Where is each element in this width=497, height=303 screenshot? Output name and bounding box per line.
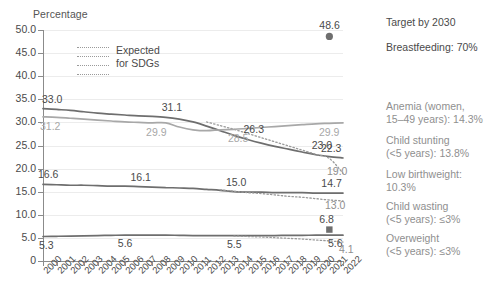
value-label: 14.7: [321, 177, 341, 189]
side-panel-overweight-line1: Overweight: [386, 232, 439, 244]
value-label: 16.1: [130, 171, 150, 183]
legend-label: Expected for SDGs: [116, 44, 160, 69]
y-tick-label: 15.0: [0, 185, 36, 197]
value-label: 5.6: [118, 237, 133, 249]
series-line: [43, 109, 343, 158]
value-label: 33.0: [42, 93, 62, 105]
value-label: 31.1: [162, 101, 182, 113]
legend-label-line2: for SDGs: [116, 57, 159, 69]
series-line: [43, 235, 343, 236]
side-panel-stunting: Child stunting (<5 years): 13.8%: [386, 134, 494, 160]
value-label: 6.8: [319, 213, 334, 225]
y-axis-title: Percentage: [33, 8, 88, 20]
side-panel-breastfeeding: Breastfeeding: 70%: [386, 41, 494, 54]
side-panel-birthweight: Low birthweight: 10.3%: [386, 168, 494, 194]
y-tick-label: 40.0: [0, 69, 36, 81]
y-tick-label: 25.0: [0, 139, 36, 151]
chart-root: Percentage 05.010.015.020.025.030.035.04…: [0, 0, 497, 303]
side-panel-anemia: Anemia (women, 15–49 years): 14.3%: [386, 100, 494, 126]
side-panel-heading: Target by 2030: [386, 16, 494, 29]
series-line: [234, 236, 343, 242]
side-panel-stunting-line2: (<5 years): 13.8%: [386, 147, 469, 159]
value-label: 13.0: [325, 199, 345, 211]
y-tick-label: 0: [0, 254, 36, 266]
side-panel-stunting-line1: Child stunting: [386, 134, 450, 146]
value-label: 29.9: [146, 126, 166, 138]
series-line: [43, 117, 343, 131]
side-panel-overweight: Overweight (<5 years): ≤3%: [386, 232, 494, 258]
side-panel-birthweight-line1: Low birthweight:: [386, 168, 462, 180]
value-label: 28.5: [228, 132, 248, 144]
value-label: 5.3: [39, 239, 54, 251]
data-point-marker: [326, 226, 332, 232]
y-tick-label: 30.0: [0, 115, 36, 127]
side-panel-wasting: Child wasting (<5 years): ≤3%: [386, 200, 494, 226]
value-label: 5.5: [227, 238, 242, 250]
value-label: 22.3: [321, 142, 341, 154]
y-tick-label: 35.0: [0, 92, 36, 104]
side-panel: Target by 2030 Breastfeeding: 70% Anemia…: [386, 16, 494, 264]
side-panel-wasting-line2: (<5 years): ≤3%: [386, 213, 460, 225]
value-label: 15.0: [226, 176, 246, 188]
y-tick-label: 45.0: [0, 46, 36, 58]
side-panel-overweight-line2: (<5 years): ≤3%: [386, 245, 460, 257]
data-point-marker: [326, 33, 333, 40]
series-line: [43, 184, 343, 193]
side-panel-birthweight-line2: 10.3%: [386, 181, 416, 193]
legend-label-line1: Expected: [116, 44, 160, 56]
legend-dotted-swatch: [77, 45, 109, 78]
y-tick-label: 20.0: [0, 162, 36, 174]
side-panel-wasting-line1: Child wasting: [386, 200, 448, 212]
y-tick-label: 10.0: [0, 208, 36, 220]
value-label: 31.2: [40, 120, 60, 132]
side-panel-anemia-line2: 15–49 years): 14.3%: [386, 113, 483, 125]
value-label: 16.6: [38, 168, 58, 180]
y-tick-label: 50.0: [0, 23, 36, 35]
value-label: 29.9: [319, 126, 339, 138]
y-tick-label: 5.0: [0, 231, 36, 243]
legend: Expected for SDGs: [77, 44, 160, 78]
value-label: 4.1: [339, 243, 354, 255]
value-label: 48.6: [319, 19, 339, 31]
side-panel-anemia-line1: Anemia (women,: [386, 100, 465, 112]
value-label: 19.0: [327, 165, 347, 177]
